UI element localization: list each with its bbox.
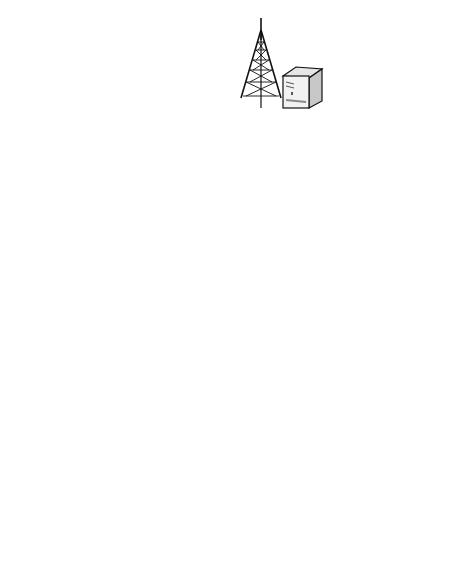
radio-tower-icon [241, 18, 281, 108]
server-icon [283, 67, 322, 108]
sensor-network-diagram [0, 0, 455, 562]
